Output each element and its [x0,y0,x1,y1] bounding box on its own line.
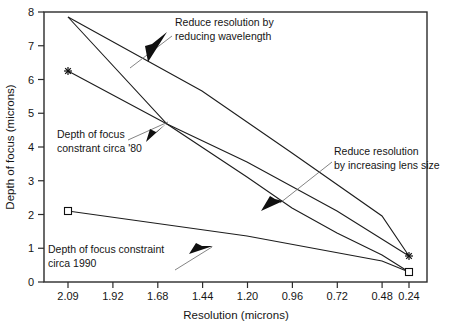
x-tick-label-3: 1.44 [192,290,213,302]
y-tick-label-6: 6 [28,74,34,86]
y-tick-label-5: 5 [28,107,34,119]
marker-star-left-circa80 [64,67,72,75]
annotation-reduce-wavelength-line1: Reduce resolution by [175,16,274,28]
x-tick-label-1: 1.92 [102,290,123,302]
annotation-reduce-wavelength-line2: reducing wavelength [175,30,271,42]
x-tick-label-2: 1.68 [147,290,168,302]
y-tick-label-1: 1 [28,242,34,254]
annotation-constraint1990-line1: Depth of focus constraint [48,243,164,255]
y-axis-title: Depth of focus (microns) [4,84,16,209]
x-axis-ticks [68,282,409,288]
y-tick-label-4: 4 [28,141,34,153]
x-tick-label-6: 0.72 [327,290,348,302]
chart-figure: 8 7 6 5 4 3 2 1 0 Depth of focus (micron… [0,0,454,326]
y-tick-label-8: 8 [28,6,34,18]
annotation-lens-size-line1: Reduce resolution [334,145,419,157]
annotation-constraint1990-line2: circa 1990 [48,257,97,269]
chart-canvas: 8 7 6 5 4 3 2 1 0 Depth of focus (micron… [0,0,454,326]
x-tick-label-5: 0.96 [282,290,303,302]
annotation-reduce-wavelength-arrowhead [145,32,167,62]
y-tick-label-7: 7 [28,40,34,52]
annotation-lens-size-leader [280,162,332,203]
y-tick-label-3: 3 [28,175,34,187]
annotation-lens-size-arrowhead [261,196,283,211]
x-tick-label-0: 2.09 [57,290,78,302]
y-axis-ticks [38,12,44,282]
x-tick-label-4: 1.20 [237,290,258,302]
marker-square-left-209 [65,208,72,215]
annotation-constrant80-line1: Depth of focus [57,128,125,140]
x-tick-label-8: 0.24 [398,290,419,302]
marker-star-right-078 [405,252,413,260]
y-tick-label-0: 0 [28,276,34,288]
y-tick-label-2: 2 [28,209,34,221]
series-line-constraint-circa-1990 [68,211,409,272]
x-axis-title: Resolution (microns) [183,309,289,321]
annotation-constrant80-arrowhead [146,123,167,142]
x-tick-label-7: 0.48 [371,290,392,302]
marker-square-right-028 [406,269,413,276]
annotation-lens-size-line2: by increasing lens size [334,159,440,171]
annotation-constrant80-line2: constrant circa '80 [57,142,142,154]
